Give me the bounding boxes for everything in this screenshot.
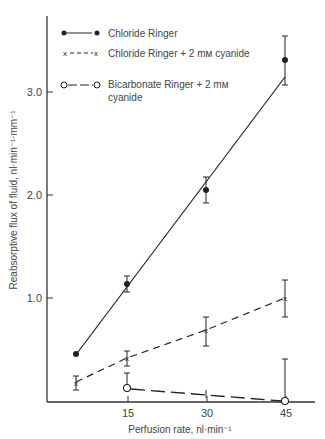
svg-text:x: x <box>283 294 287 303</box>
legend-chloride-cyanide: Chloride Ringer + 2 mм cyanide <box>108 48 250 59</box>
x-tick-45: 45 <box>280 407 292 419</box>
svg-text:x: x <box>94 49 98 58</box>
svg-text:x: x <box>74 379 78 388</box>
legend: Chloride Ringer x x Chloride Ringer + 2 … <box>61 28 250 103</box>
x-axis-label: Perfusion rate, nl·min⁻¹ <box>128 424 232 435</box>
svg-text:x: x <box>204 326 208 335</box>
y-tick-1: 1.0 <box>27 292 42 304</box>
y-tick-2: 2.0 <box>27 189 42 201</box>
legend-bicarbonate-cyanide: Bicarbonate Ringer + 2 mм <box>108 79 229 90</box>
series-bicarbonate-cyanide <box>124 359 289 405</box>
legend-chloride-ringer: Chloride Ringer <box>108 28 178 39</box>
svg-text:x: x <box>63 49 67 58</box>
svg-text:x: x <box>125 354 129 363</box>
legend-bicarbonate-cyanide-line2: cyanide <box>108 92 143 103</box>
chart: 3.0 2.0 1.0 15 30 45 Perfusion rate, nl·… <box>0 0 325 439</box>
y-axis-label: Reabsorptive flux of fluid, nl·min⁻¹·mm⁻… <box>8 110 19 290</box>
series-chloride-cyanide: x x x x <box>73 280 288 390</box>
y-tick-3: 3.0 <box>27 86 42 98</box>
x-tick-15: 15 <box>122 407 134 419</box>
x-tick-30: 30 <box>201 407 213 419</box>
